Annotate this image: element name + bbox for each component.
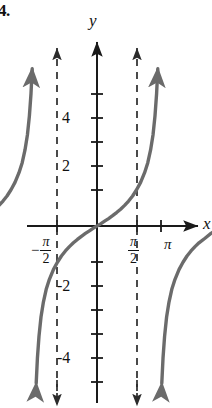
fraction-numerator: π — [40, 234, 51, 251]
x-tick-label-half-pi: π 2 — [128, 234, 139, 267]
y-tick-label-2: 2 — [62, 158, 70, 174]
y-axis-label: y — [89, 12, 97, 29]
fraction-denominator: 2 — [40, 251, 51, 267]
x-axis-label: x — [203, 215, 211, 232]
fraction-half-pi: π 2 — [40, 234, 51, 267]
y-tick-label-minus-4: -4 — [57, 350, 70, 366]
tangent-graph-figure: 4. y x 4 2 -2 -4 − π 2 π 2 π — [0, 0, 212, 408]
minus-sign: − — [31, 243, 40, 258]
fraction-half-pi: π 2 — [128, 234, 139, 267]
y-tick-label-minus-2: -2 — [57, 278, 70, 294]
fraction-denominator: 2 — [128, 251, 139, 267]
x-tick-label-pi: π — [164, 237, 172, 252]
problem-number: 4. — [0, 2, 10, 19]
plot-canvas — [0, 0, 212, 408]
x-tick-label-minus-half-pi: − π 2 — [31, 234, 51, 267]
curve-branch-left — [0, 69, 32, 219]
curve-branch-right — [162, 207, 212, 383]
y-tick-label-4: 4 — [62, 110, 70, 126]
fraction-numerator: π — [128, 234, 139, 251]
